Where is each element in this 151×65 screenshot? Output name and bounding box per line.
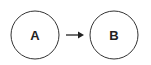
node-a: A — [11, 11, 59, 59]
node-b-label: B — [109, 28, 118, 43]
diagram-canvas: A B — [0, 0, 151, 65]
arrow-head-icon — [78, 32, 84, 39]
node-a-label: A — [30, 28, 40, 43]
node-b: B — [90, 11, 138, 59]
edge-a-to-b — [66, 32, 84, 39]
